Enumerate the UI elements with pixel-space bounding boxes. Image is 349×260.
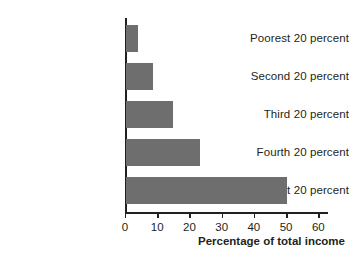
x-axis-tick bbox=[189, 212, 190, 218]
bar-richest bbox=[126, 177, 287, 204]
bar-second bbox=[126, 63, 153, 90]
plot-area: 0102030405060 bbox=[125, 18, 328, 212]
x-axis-tick bbox=[318, 212, 319, 218]
bar-chart: Poorest 20 percent Second 20 percent Thi… bbox=[0, 0, 349, 260]
x-axis-tick-label: 50 bbox=[280, 221, 293, 233]
x-axis-line bbox=[125, 212, 328, 214]
x-axis-tick-label: 60 bbox=[312, 221, 325, 233]
x-axis-tick bbox=[286, 212, 287, 218]
bar-poorest bbox=[126, 25, 138, 52]
x-axis-tick-label: 30 bbox=[215, 221, 228, 233]
bar-fourth bbox=[126, 139, 200, 166]
bar-third bbox=[126, 101, 173, 128]
x-axis-tick-label: 0 bbox=[122, 221, 128, 233]
x-axis-tick-label: 10 bbox=[151, 221, 164, 233]
x-axis-tick-label: 40 bbox=[247, 221, 260, 233]
x-axis-title: Percentage of total income bbox=[0, 235, 345, 247]
x-axis-tick bbox=[125, 212, 126, 218]
x-axis-tick bbox=[254, 212, 255, 218]
x-axis-tick bbox=[222, 212, 223, 218]
x-axis-tick bbox=[157, 212, 158, 218]
x-axis-tick-label: 20 bbox=[183, 221, 196, 233]
